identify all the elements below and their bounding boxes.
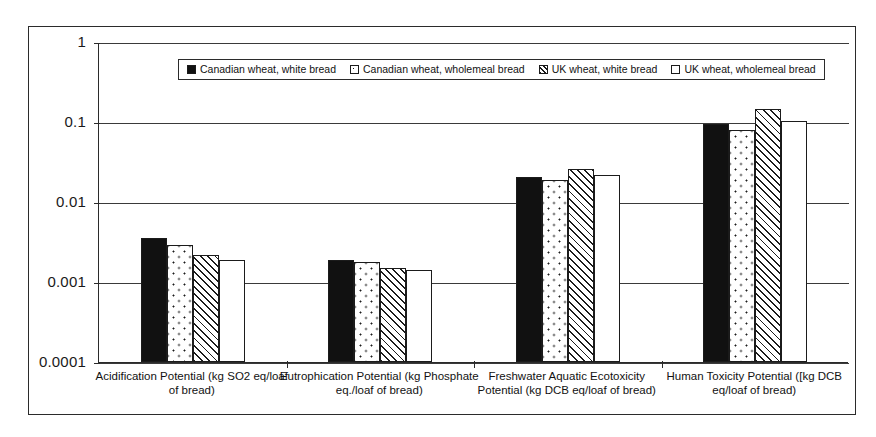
gridline xyxy=(99,43,849,44)
bar xyxy=(542,180,568,362)
bar xyxy=(703,124,729,362)
bar xyxy=(167,245,193,362)
bar xyxy=(354,262,380,362)
bar xyxy=(781,121,807,362)
y-axis-tick-label: 1 xyxy=(0,33,86,50)
legend-entry: UK wheat, wholemeal bread xyxy=(671,64,815,75)
y-axis-tick-label: 0.001 xyxy=(0,273,86,290)
bar xyxy=(219,260,245,362)
x-axis-category-label: Eutrophication Potential (kg Phosphate e… xyxy=(278,369,482,398)
legend-entry: Canadian wheat, white bread xyxy=(187,64,336,75)
y-axis-tick-mark xyxy=(94,283,100,284)
bar xyxy=(516,177,542,362)
y-axis-tick-mark xyxy=(94,203,100,204)
x-axis-category-label: Human Toxicity Potential ([kg DCB eq/loa… xyxy=(653,369,857,398)
x-axis-separator-tick xyxy=(287,361,288,368)
legend-label: UK wheat, white bread xyxy=(552,64,658,75)
legend-swatch-icon xyxy=(539,65,548,74)
x-axis-category-label: Acidification Potential (kg SO2 eq/loaf … xyxy=(90,369,294,398)
bar xyxy=(755,109,781,362)
bar xyxy=(594,175,620,362)
legend-swatch-icon xyxy=(671,65,680,74)
x-axis-category-label: Freshwater Aquatic Ecotoxicity Potential… xyxy=(465,369,669,398)
y-axis-tick-mark xyxy=(94,363,100,364)
gridline xyxy=(99,123,849,124)
bar xyxy=(380,268,406,362)
bar xyxy=(328,260,354,362)
chart-figure: 10.10.010.0010.0001 Canadian wheat, whit… xyxy=(0,0,876,437)
y-axis-tick-mark xyxy=(94,43,100,44)
y-axis-tick-mark xyxy=(94,123,100,124)
y-axis-tick-label: 0.1 xyxy=(0,113,86,130)
legend-swatch-icon xyxy=(350,65,359,74)
legend-entry: UK wheat, white bread xyxy=(539,64,658,75)
y-axis-tick-label: 0.01 xyxy=(0,193,86,210)
legend-label: Canadian wheat, wholemeal bread xyxy=(363,64,525,75)
legend-entry: Canadian wheat, wholemeal bread xyxy=(350,64,525,75)
chart-legend: Canadian wheat, white breadCanadian whea… xyxy=(178,59,825,80)
y-axis-tick-label: 0.0001 xyxy=(0,353,86,370)
plot-area xyxy=(98,43,848,363)
legend-label: Canadian wheat, white bread xyxy=(200,64,336,75)
x-axis-separator-tick xyxy=(474,361,475,368)
legend-swatch-icon xyxy=(187,65,196,74)
bar xyxy=(193,255,219,362)
bar xyxy=(729,130,755,362)
x-axis-separator-tick xyxy=(662,361,663,368)
legend-label: UK wheat, wholemeal bread xyxy=(684,64,815,75)
bar xyxy=(406,270,432,362)
bar xyxy=(141,238,167,362)
bar xyxy=(568,169,594,362)
